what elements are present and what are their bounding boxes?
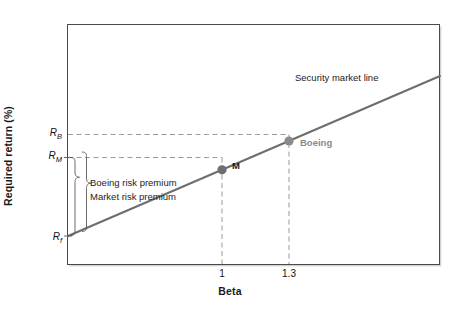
annotation-boeing-risk-premium: Boeing risk premium [90,177,177,188]
x-tick-label-1: 1 [202,268,242,279]
y-tick-rf-base: R [53,231,60,242]
annotation-market-risk-premium: Market risk premium [90,191,176,202]
chart-figure: Required return (%) Beta RB RM Rf 1 1.3 … [0,0,460,319]
y-tick-rf-sub: f [60,236,62,245]
y-tick-label-rm: RM [14,150,62,164]
y-tick-rm-base: R [49,150,56,161]
y-tick-rb-base: R [50,127,57,138]
annotation-security-market-line: Security market line [295,72,378,83]
annotation-boeing: Boeing [300,137,332,148]
annotation-market: M [232,160,240,171]
y-tick-label-rf: Rf [14,231,62,245]
y-tick-rb-sub: B [57,132,62,141]
y-tick-rm-sub: M [56,155,62,164]
x-axis-title: Beta [0,285,460,297]
x-tick-label-1-3: 1.3 [269,268,309,279]
plot-area [67,24,440,265]
y-tick-label-rb: RB [14,127,62,141]
